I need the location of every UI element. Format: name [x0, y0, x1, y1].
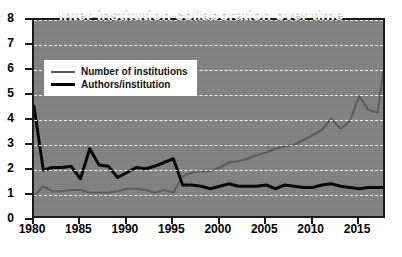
y-tick-mark-4: [25, 118, 32, 120]
gridline-y-1: [34, 195, 383, 196]
y-tick-mark-8: [25, 18, 32, 20]
y-tick-label-5: 5: [0, 87, 14, 99]
gridline-y-7: [34, 45, 383, 46]
legend-label: Authors/institution: [81, 80, 170, 90]
gridline-y-2: [34, 170, 383, 171]
x-tick-mark-2005: [264, 218, 266, 224]
x-tick-label-1995: 1995: [158, 222, 185, 236]
legend-swatch-black-icon: [51, 83, 75, 86]
x-tick-label-1980: 1980: [19, 222, 46, 236]
x-tick-mark-1995: [171, 218, 173, 224]
series-lines: [34, 20, 385, 218]
x-tick-mark-2010: [311, 218, 313, 224]
legend-item-2[interactable]: Authors/institution: [51, 78, 188, 91]
x-tick-label-2010: 2010: [297, 222, 324, 236]
y-tick-mark-3: [25, 143, 32, 145]
legend-item-1[interactable]: Number of institutions: [51, 65, 188, 78]
x-tick-mark-1980: [32, 218, 34, 224]
chart-figure: Inter-institution collaboration over tim…: [0, 0, 402, 257]
x-tick-label-2005: 2005: [251, 222, 278, 236]
y-tick-label-0: 0: [0, 212, 14, 224]
x-tick-mark-2000: [218, 218, 220, 224]
y-tick-label-4: 4: [0, 112, 14, 124]
x-tick-label-1985: 1985: [65, 222, 92, 236]
y-tick-label-2: 2: [0, 162, 14, 174]
x-tick-mark-2015: [357, 218, 359, 224]
gridline-y-3: [34, 145, 383, 146]
y-tick-mark-7: [25, 43, 32, 45]
legend-swatch-gray-icon: [51, 71, 75, 73]
y-tick-label-7: 7: [0, 37, 14, 49]
y-tick-label-3: 3: [0, 137, 14, 149]
y-tick-mark-5: [25, 93, 32, 95]
gridline-y-4: [34, 120, 383, 121]
x-tick-label-2015: 2015: [344, 222, 371, 236]
y-tick-mark-1: [25, 193, 32, 195]
page-title: Inter-institution collaboration over tim…: [0, 6, 402, 24]
y-tick-label-6: 6: [0, 62, 14, 74]
legend: Number of institutionsAuthors/institutio…: [44, 60, 197, 96]
y-tick-mark-0: [25, 218, 32, 220]
y-tick-label-1: 1: [0, 187, 14, 199]
x-tick-label-2000: 2000: [204, 222, 231, 236]
plot-area: [32, 18, 385, 218]
x-tick-label-1990: 1990: [112, 222, 139, 236]
legend-label: Number of institutions: [81, 67, 188, 77]
y-tick-mark-2: [25, 168, 32, 170]
x-tick-mark-1985: [78, 218, 80, 224]
x-tick-mark-1990: [125, 218, 127, 224]
y-tick-mark-6: [25, 68, 32, 70]
y-tick-label-8: 8: [0, 12, 14, 24]
